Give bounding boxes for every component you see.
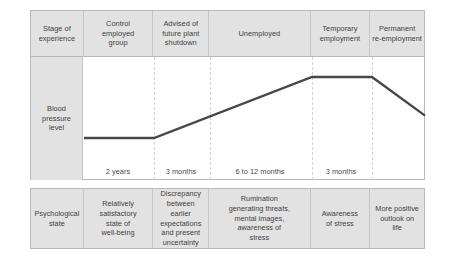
band-spacer [30, 180, 425, 188]
stage-header-advised-of-shutdown: Advised of future plant shutdown [152, 11, 208, 56]
stage-header-temporary-employment: Temporary employment [310, 11, 370, 56]
row-label-stage: Stage of experience [31, 11, 83, 56]
duration-temporary-employment: 3 months [311, 162, 371, 178]
blood-pressure-trend-line [84, 77, 425, 138]
state-advised-of-shutdown: Discrepancy between earlier expectations… [152, 189, 208, 248]
duration-permanent-re-employment [371, 162, 425, 178]
row-label-blood-pressure-level: Blood pressure level [31, 57, 83, 180]
duration-advised-of-shutdown: 3 months [153, 162, 209, 178]
stage-header-control-employed-group: Control employed group [83, 11, 153, 56]
stage-header-permanent-re-employment: Permanent re-employment [369, 11, 424, 56]
stage-header-unemployed: Unemployed [208, 11, 309, 56]
state-unemployed: Rumination generating threats, mental im… [208, 189, 309, 248]
stage-header-row: Stage of experience Control employed gro… [30, 10, 425, 57]
psychological-state-row: Psychological state Relatively satisfact… [30, 188, 425, 249]
stage-of-experience-figure: Stage of experience Control employed gro… [30, 10, 425, 250]
blood-pressure-chart-row: Blood pressure level 2 years 3 months 6 … [30, 57, 425, 180]
duration-control-employed-group: 2 years [83, 162, 153, 178]
row-label-psychological-state: Psychological state [31, 189, 83, 248]
duration-unemployed: 6 to 12 months [209, 162, 311, 178]
state-control-employed-group: Relatively satisfactory state of well-be… [83, 189, 153, 248]
state-temporary-employment: Awareness of stress [310, 189, 370, 248]
duration-labels-row: 2 years 3 months 6 to 12 months 3 months [83, 162, 425, 178]
state-permanent-re-employment: More positive outlook on life [369, 189, 424, 248]
